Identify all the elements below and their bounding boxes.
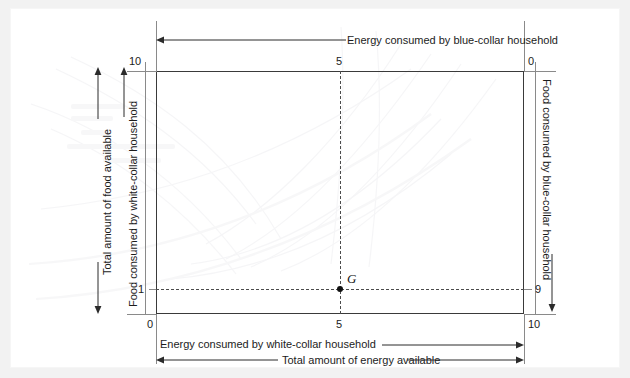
bottom-outer-arrow-left xyxy=(156,353,278,367)
left-axis-extension xyxy=(145,62,146,314)
right-axis-extension xyxy=(535,62,536,314)
tick-top-left: 10 xyxy=(129,56,141,67)
right-arrow xyxy=(545,254,559,312)
top-right-corner-extension xyxy=(524,21,525,71)
caption-left-inner: Food consumed by white-collar household xyxy=(127,101,139,307)
tick-bottom-left: 0 xyxy=(147,319,153,330)
caption-bottom-inner: Energy consumed by white-collar househol… xyxy=(160,338,376,350)
bottom-right-corner-extension xyxy=(524,314,525,364)
point-g-marker[interactable] xyxy=(337,286,343,292)
bottom-tick-rule-left xyxy=(127,314,157,315)
left-inner-arrow xyxy=(117,67,131,117)
point-g-label: G xyxy=(347,272,356,285)
top-tick-rule-right xyxy=(524,71,556,72)
caption-right: Food consumed by blue-collar household xyxy=(541,79,553,280)
figure-root: 10 5 0 0 5 10 1 9 Energy consumed by blu… xyxy=(0,0,630,378)
tick-top-right: 0 xyxy=(528,56,534,67)
tick-top-center: 5 xyxy=(336,56,342,67)
caption-left-outer: Total amount of food available xyxy=(101,129,113,275)
top-arrow xyxy=(156,33,346,47)
tick-right-point-9: 9 xyxy=(535,284,541,295)
top-tick-rule-left xyxy=(127,71,157,72)
right-tick-9 xyxy=(524,289,532,290)
caption-top: Energy consumed by blue-collar household xyxy=(347,34,558,46)
guide-line-vertical xyxy=(340,71,341,314)
bottom-outer-arrow-right xyxy=(407,353,524,367)
left-outer-arrow-top xyxy=(91,67,105,119)
left-outer-arrow-bottom xyxy=(91,262,105,314)
tick-bottom-right: 10 xyxy=(528,319,540,330)
figure-sheet: 10 5 0 0 5 10 1 9 Energy consumed by blu… xyxy=(11,9,619,367)
bottom-inner-arrow xyxy=(382,338,524,352)
bottom-tick-rule-right xyxy=(524,314,556,315)
tick-bottom-center: 5 xyxy=(336,319,342,330)
